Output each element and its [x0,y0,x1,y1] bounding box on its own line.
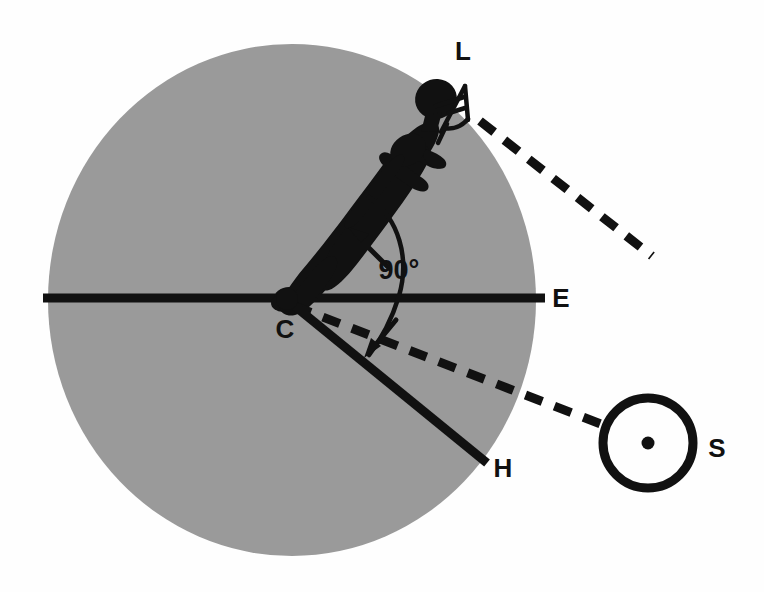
label-angle-90: 90° [379,255,420,285]
label-c: C [276,314,295,344]
sun-center-dot [642,437,655,450]
label-e: E [552,283,569,313]
diagram-canvas: L C E H S 90° [0,0,764,592]
label-s: S [708,433,725,463]
point-c-marker [276,288,298,310]
label-h: H [494,453,513,483]
label-l: L [455,36,471,66]
navigation-diagram: L C E H S 90° [0,0,764,592]
sun-symbol [603,398,693,488]
